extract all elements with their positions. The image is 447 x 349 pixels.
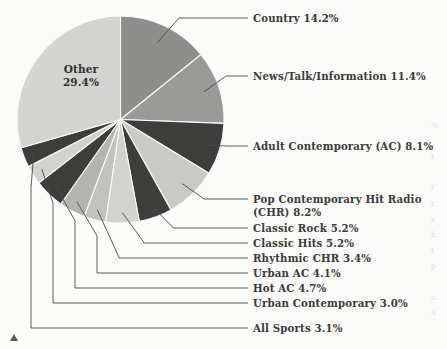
callout-labels-layer: Country 14.2% News/Talk/Information 11.4… xyxy=(0,0,447,349)
callout-label-urban-ac: Urban AC 4.1% xyxy=(253,267,341,280)
callout-label-pop-chr: Pop Contemporary Hit Radio (CHR) 8.2% xyxy=(253,193,422,219)
callout-label-all-sports: All Sports 3.1% xyxy=(253,322,342,335)
callout-label-urban-contemporary: Urban Contemporary 3.0% xyxy=(253,297,408,310)
pie-chart-figure: Other 29.4% Country 14.2% News/Talk/Info… xyxy=(0,0,447,349)
page-edge-bleed-text: % t f t v h t p n a xyxy=(431,118,447,328)
callout-label-hot-ac: Hot AC 4.7% xyxy=(253,282,326,295)
callout-label-country: Country 14.2% xyxy=(253,12,339,25)
callout-label-adult-contemporary: Adult Contemporary (AC) 8.1% xyxy=(253,140,433,153)
callout-label-classic-rock: Classic Rock 5.2% xyxy=(253,222,359,235)
callout-label-classic-hits: Classic Hits 5.2% xyxy=(253,237,354,250)
callout-label-rhythmic-chr: Rhythmic CHR 3.4% xyxy=(253,252,371,265)
callout-label-news-talk: News/Talk/Information 11.4% xyxy=(253,70,426,83)
